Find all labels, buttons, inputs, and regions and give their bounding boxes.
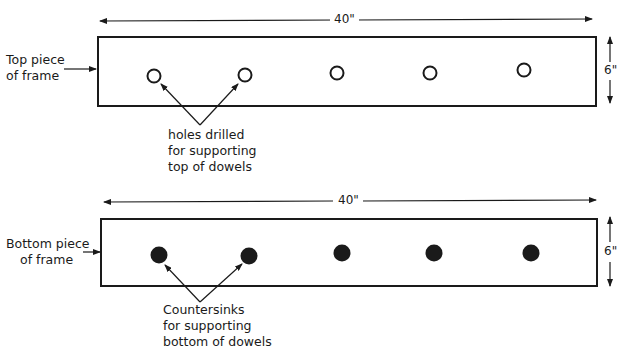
top-piece-label-line2: of frame (6, 68, 59, 84)
top-callout-line3: top of dowels (168, 159, 252, 175)
bottom-callout-arrow-left (165, 265, 200, 302)
top-piece-label-line1: Top piece (6, 52, 65, 68)
bottom-countersink-3 (334, 245, 351, 262)
bottom-height-label: 6" (604, 244, 617, 258)
top-hole-1 (148, 70, 161, 83)
bottom-piece-group (83, 200, 610, 302)
top-width-dimension-arrow (100, 20, 338, 21)
top-callout-line2: for supporting (168, 143, 256, 159)
bottom-countersink-4 (426, 245, 443, 262)
bottom-callout-arrow-right (200, 264, 242, 302)
bottom-countersink-5 (523, 245, 540, 262)
bottom-piece-label-line2: of frame (20, 252, 73, 268)
top-callout-arrow-left (161, 84, 200, 125)
bottom-countersink-2 (241, 248, 258, 265)
top-height-label: 6" (604, 63, 617, 77)
top-hole-4 (424, 67, 437, 80)
bottom-callout-line2: for supporting (163, 318, 251, 334)
top-piece-group (64, 19, 610, 125)
bottom-width-dimension-arrow (104, 201, 333, 202)
bottom-width-label: 40" (334, 193, 363, 207)
frame-diagram (0, 0, 626, 354)
top-callout-line1: holes drilled (168, 127, 244, 143)
top-hole-3 (331, 67, 344, 80)
bottom-callout-line1: Countersinks (163, 302, 245, 318)
top-hole-2 (239, 69, 252, 82)
bottom-callout-line3: bottom of dowels (163, 334, 272, 350)
bottom-countersink-1 (151, 247, 168, 264)
bottom-piece-label-line1: Bottom piece (6, 236, 89, 252)
top-hole-5 (518, 64, 531, 77)
top-callout-arrow-right (200, 84, 238, 125)
top-width-label: 40" (330, 12, 359, 26)
